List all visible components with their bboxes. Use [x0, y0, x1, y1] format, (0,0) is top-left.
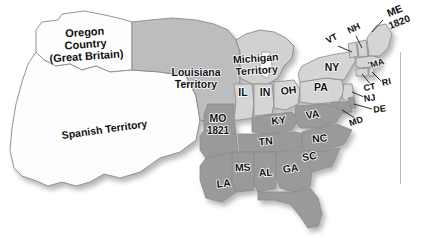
state-code-NC: NC: [311, 131, 328, 145]
state-code-LA: LA: [216, 176, 232, 189]
state-code-DE: DE: [373, 103, 387, 115]
legend-panel: [400, 52, 421, 184]
state-code-AL: AL: [258, 165, 273, 178]
state-code-KY: KY: [271, 113, 287, 126]
state-code-SC: SC: [301, 149, 318, 163]
label-michigan-territory: Michigan Territory: [233, 50, 280, 77]
state-code-GA: GA: [282, 161, 300, 175]
state-CT: [356, 68, 368, 76]
state-NH: [357, 40, 368, 57]
state-year-MO: 1821: [207, 125, 230, 136]
state-code-NJ: NJ: [363, 92, 376, 104]
state-code-VA: VA: [305, 107, 321, 121]
louisiana-line-2: Territory: [175, 78, 218, 90]
louisiana-line-1: Louisiana: [171, 66, 220, 78]
state-code-IN: IN: [260, 86, 271, 98]
state-VT: [348, 42, 358, 58]
state-code-MS: MS: [234, 160, 251, 173]
historical-map: Oregon Country (Great Britain) Spanish T…: [0, 0, 421, 238]
state-code-OH: OH: [280, 83, 297, 97]
state-code-PA: PA: [314, 81, 328, 93]
state-code-IL: IL: [238, 86, 248, 98]
label-louisiana-territory: Louisiana Territory: [171, 66, 220, 90]
state-code-NY: NY: [325, 61, 340, 73]
map-container: Oregon Country (Great Britain) Spanish T…: [0, 0, 421, 238]
state-code-TN: TN: [258, 134, 273, 147]
state-code-MO: MO: [210, 112, 227, 124]
